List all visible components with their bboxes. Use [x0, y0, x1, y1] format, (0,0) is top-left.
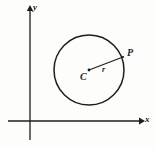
- geometry-figure: y x C r P: [0, 0, 156, 148]
- radius-label-r: r: [102, 66, 105, 74]
- point-label-p: P: [127, 48, 133, 58]
- radius-segment: [89, 57, 123, 70]
- center-point-dot: [88, 69, 91, 72]
- y-axis: [27, 5, 33, 140]
- y-axis-label: y: [33, 3, 37, 12]
- x-axis-label: x: [145, 115, 150, 124]
- center-label-c: C: [80, 72, 87, 82]
- point-p-dot: [122, 56, 124, 58]
- x-axis: [8, 118, 145, 125]
- figure-canvas: [0, 0, 156, 148]
